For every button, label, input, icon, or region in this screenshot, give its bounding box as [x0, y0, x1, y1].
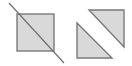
diagram-canvas	[0, 0, 132, 66]
split-square-icon	[0, 0, 132, 66]
